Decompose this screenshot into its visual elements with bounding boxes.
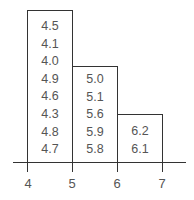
value: 5.8	[73, 141, 117, 159]
value: 4.8	[28, 124, 72, 142]
value: 5.1	[73, 89, 117, 107]
bin-4-5: 4.5 4.1 4.0 4.9 4.6 4.3 4.8 4.7	[27, 10, 73, 163]
bin-5-6: 5.0 5.1 5.6 5.9 5.8	[72, 66, 118, 163]
value: 4.7	[28, 141, 72, 159]
tick-7	[162, 162, 163, 172]
x-axis	[13, 162, 186, 163]
value: 5.9	[73, 124, 117, 142]
tick-6	[117, 162, 118, 172]
value: 4.5	[28, 18, 72, 36]
value: 4.1	[28, 36, 72, 54]
tick-label-5: 5	[62, 176, 82, 191]
value: 6.1	[118, 141, 162, 159]
value: 4.6	[28, 88, 72, 106]
value: 4.0	[28, 53, 72, 71]
tick-5	[72, 162, 73, 172]
bin-6-7: 6.2 6.1	[117, 114, 163, 163]
tick-label-4: 4	[18, 176, 38, 191]
value: 5.6	[73, 106, 117, 124]
value: 4.9	[28, 71, 72, 89]
value: 4.3	[28, 106, 72, 124]
tick-4	[27, 162, 28, 172]
tick-label-6: 6	[107, 176, 127, 191]
value: 6.2	[118, 123, 162, 141]
tick-label-7: 7	[152, 176, 172, 191]
value: 5.0	[73, 71, 117, 89]
